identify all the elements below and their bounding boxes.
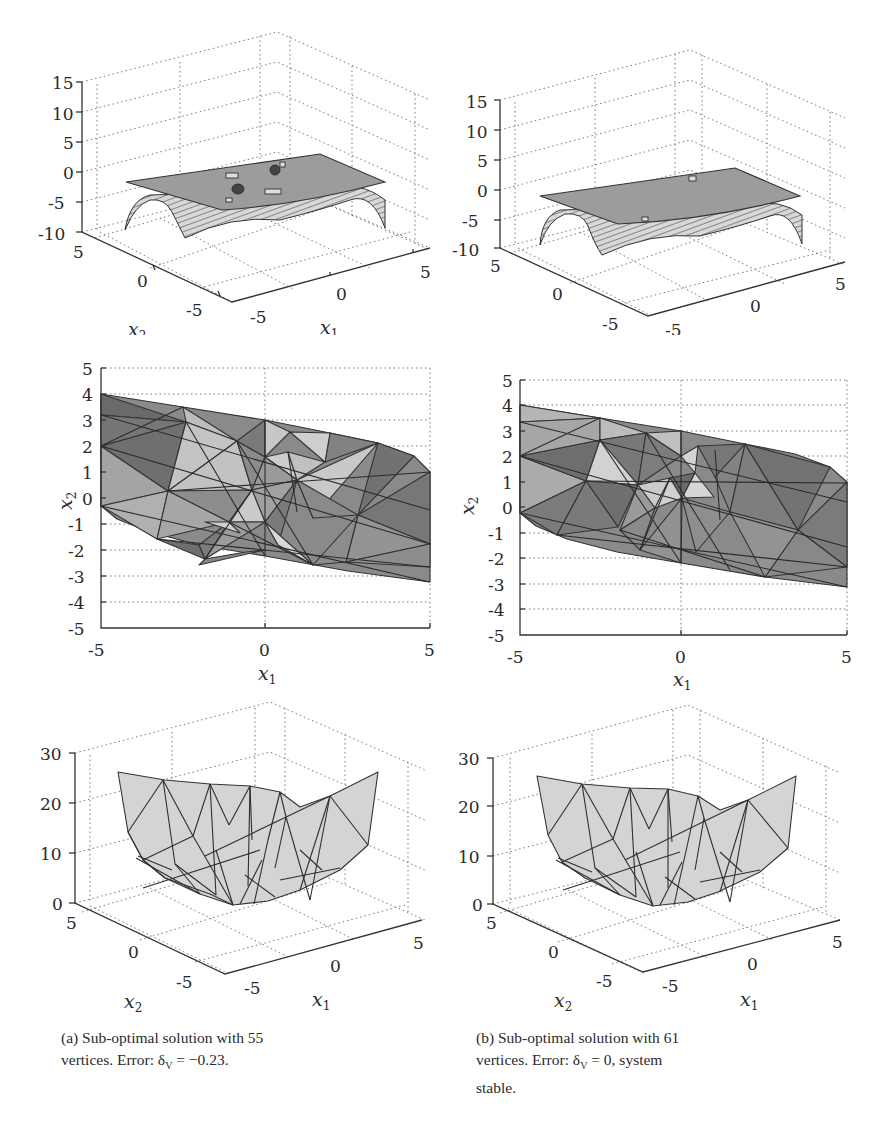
svg-text:-3: -3 (68, 567, 85, 587)
svg-text:5: 5 (486, 913, 497, 933)
x1-axis-label: x1 (673, 668, 691, 690)
caption-b-line3: stable. (476, 1077, 826, 1099)
svg-text:0: 0 (330, 956, 341, 976)
svg-text:-1: -1 (68, 515, 85, 535)
x2-tick-labels: 5 0 -5 (73, 242, 203, 320)
svg-text:10: 10 (466, 122, 488, 142)
svg-text:5: 5 (841, 647, 852, 667)
svg-text:0: 0 (552, 284, 563, 304)
svg-text:-2: -2 (68, 541, 85, 561)
svg-text:-5: -5 (488, 626, 505, 646)
svg-text:10: 10 (458, 847, 480, 867)
svg-text:0: 0 (82, 489, 93, 509)
x-tick-labels: -5 0 5 (507, 647, 852, 667)
svg-text:20: 20 (458, 797, 480, 817)
svg-text:-10: -10 (38, 224, 65, 244)
caption-b-line1: (b) Sub-optimal solution with 61 (476, 1027, 826, 1049)
svg-text:-5: -5 (602, 314, 619, 334)
svg-text:-5: -5 (507, 647, 524, 667)
svg-text:4: 4 (502, 396, 513, 416)
svg-text:5: 5 (424, 640, 435, 660)
svg-text:-5: -5 (596, 971, 613, 991)
svg-text:4: 4 (82, 385, 93, 405)
svg-text:1: 1 (82, 463, 93, 483)
svg-text:-4: -4 (68, 593, 85, 613)
x2-tick-labels: 5 0 -5 (486, 913, 613, 991)
svg-text:5: 5 (82, 359, 93, 379)
x2-tick-labels: 5 0 -5 (66, 913, 193, 992)
svg-text:0: 0 (472, 895, 483, 915)
svg-text:0: 0 (675, 647, 686, 667)
svg-text:0: 0 (63, 163, 74, 183)
svg-text:3: 3 (82, 411, 93, 431)
x1-axis-label: x1 (258, 662, 276, 687)
svg-text:5: 5 (73, 242, 84, 262)
x1-tick-labels: -5 0 5 (662, 932, 843, 996)
svg-text:0: 0 (336, 284, 347, 304)
bowl-surface (537, 776, 796, 906)
svg-text:5: 5 (420, 262, 431, 282)
svg-text:5: 5 (63, 133, 74, 153)
svg-text:30: 30 (40, 744, 62, 764)
svg-text:-5: -5 (244, 978, 261, 998)
svg-text:0: 0 (747, 954, 758, 974)
caption-b: (b) Sub-optimal solution with 61 vertice… (476, 1027, 826, 1099)
x2-tick-labels: 5 0 -5 (490, 256, 619, 334)
svg-text:0: 0 (259, 640, 270, 660)
svg-text:-5: -5 (662, 976, 679, 996)
svg-text:-5: -5 (665, 320, 682, 335)
x2-axis-label: x2 (54, 492, 79, 510)
svg-text:-1: -1 (488, 524, 505, 544)
x2-axis-label: x2 (124, 990, 142, 1015)
svg-text:0: 0 (477, 181, 488, 201)
x1-axis-label: x1 (312, 988, 330, 1013)
svg-text:1: 1 (502, 473, 513, 493)
z-tick-labels: 15 10 5 0 -5 -10 (452, 92, 488, 260)
svg-text:5: 5 (66, 913, 77, 933)
x1-tick-labels: -5 0 5 (244, 933, 424, 998)
svg-text:0: 0 (128, 942, 139, 962)
z-tick-labels: 30 20 10 0 (458, 749, 483, 915)
svg-text:0: 0 (750, 296, 761, 316)
svg-text:30: 30 (458, 749, 480, 769)
plot-a-top-3d: 15 10 5 0 -5 -10 5 0 -5 -5 0 5 x2 x1 (0, 0, 445, 335)
svg-text:5: 5 (835, 274, 846, 294)
svg-text:15: 15 (466, 92, 488, 112)
svg-text:5: 5 (477, 151, 488, 171)
z-tick-labels: 30 20 10 0 (40, 744, 63, 914)
plot-b-top-3d: 15 10 5 0 -5 -10 5 0 -5 -5 0 5 (440, 0, 893, 335)
x2-axis-label: x2 (128, 318, 146, 335)
svg-text:-5: -5 (48, 193, 65, 213)
svg-text:10: 10 (52, 104, 74, 124)
caption-a-line1: (a) Sub-optimal solution with 55 (61, 1027, 411, 1049)
svg-text:-5: -5 (250, 307, 267, 327)
y-tick-labels: 5 4 3 2 1 0 -1 -2 -3 -4 -5 (488, 371, 513, 646)
svg-text:-4: -4 (488, 600, 505, 620)
svg-text:5: 5 (413, 933, 424, 953)
svg-text:0: 0 (52, 894, 63, 914)
svg-text:5: 5 (502, 371, 513, 391)
svg-text:10: 10 (40, 844, 62, 864)
z-tick-labels: 15 10 5 0 -5 -10 (38, 73, 74, 244)
svg-text:-5: -5 (176, 972, 193, 992)
svg-text:0: 0 (548, 942, 559, 962)
plot-b-bottom-3d: 30 20 10 0 5 0 -5 -5 0 5 x2 x1 (440, 690, 893, 1015)
svg-text:2: 2 (82, 437, 93, 457)
x1-axis-label: x1 (740, 988, 758, 1013)
svg-text:0: 0 (137, 271, 148, 291)
x2-axis-label: x2 (456, 497, 481, 515)
svg-text:-5: -5 (68, 619, 85, 639)
svg-text:-5: -5 (186, 300, 203, 320)
caption-b-line2: vertices. Error: δV = 0, system (476, 1049, 826, 1077)
caption-a: (a) Sub-optimal solution with 55 vertice… (61, 1027, 411, 1077)
svg-text:-5: -5 (88, 640, 105, 660)
plot-a-bottom-3d: 30 20 10 0 5 0 -5 -5 0 5 x2 x1 (0, 690, 445, 1015)
svg-text:15: 15 (52, 73, 74, 93)
svg-text:-10: -10 (452, 240, 479, 260)
plot-a-triangulation: 5 4 3 2 1 0 -1 -2 -3 -4 -5 -5 0 5 x1 x2 (0, 340, 445, 690)
x2-axis-label: x2 (554, 989, 572, 1014)
svg-text:-3: -3 (488, 575, 505, 595)
x-tick-labels: -5 0 5 (88, 640, 435, 660)
svg-text:20: 20 (40, 794, 62, 814)
plot-b-triangulation: 5 4 3 2 1 0 -1 -2 -3 -4 -5 -5 0 5 x1 x2 (440, 340, 893, 690)
